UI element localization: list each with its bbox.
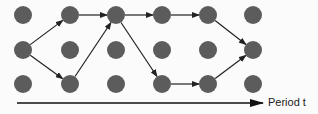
node (107, 75, 125, 93)
nodes (14, 6, 262, 93)
node (61, 75, 79, 93)
node (199, 41, 217, 59)
node (199, 75, 217, 93)
node (107, 41, 125, 59)
axis-label: Period t (268, 96, 306, 108)
node (153, 75, 171, 93)
node (153, 41, 171, 59)
node (199, 6, 217, 24)
edge-arrow (30, 55, 62, 78)
edge-arrow (215, 55, 246, 78)
node (61, 6, 79, 24)
node (244, 41, 262, 59)
edge-arrow (75, 22, 111, 76)
edge-arrow (30, 20, 63, 44)
node (61, 41, 79, 59)
edge-arrow (215, 21, 246, 45)
node (244, 6, 262, 24)
lattice-diagram: Period t (0, 0, 318, 114)
node (107, 6, 125, 24)
node (14, 75, 32, 93)
node (153, 6, 171, 24)
node (244, 75, 262, 93)
node (14, 41, 32, 59)
node (14, 6, 32, 24)
edge-arrow (121, 22, 157, 76)
